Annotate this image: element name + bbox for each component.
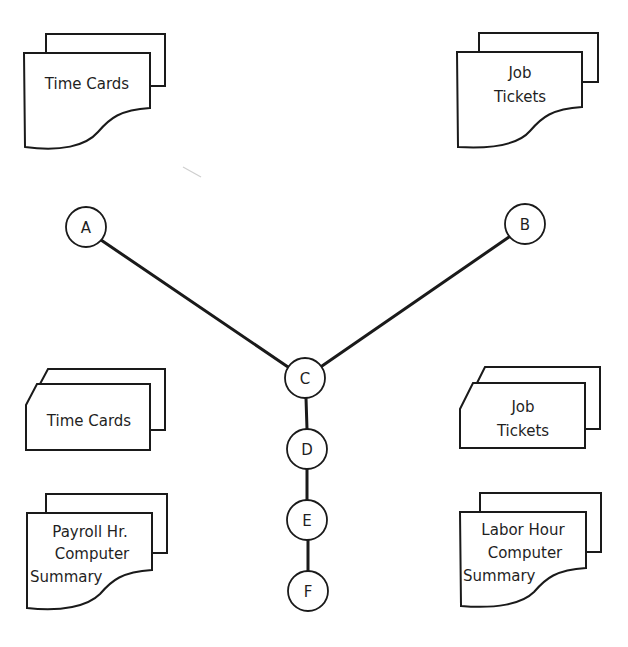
edge-a-c <box>101 240 288 367</box>
node-d: D <box>287 429 327 469</box>
document-label: Summary <box>463 567 536 585</box>
node-label: B <box>520 216 530 234</box>
node-label: A <box>81 219 92 237</box>
document-front-sheet <box>24 53 150 149</box>
flow-diagram: A B C D E F Time Cards Job Tickets Time … <box>0 0 628 647</box>
document-payroll-summary: Payroll Hr. Computer Summary <box>27 494 167 609</box>
edge-b-c <box>322 237 509 366</box>
node-b: B <box>505 204 545 244</box>
document-label: Payroll Hr. <box>52 523 127 541</box>
document-job-tickets-top: Job Tickets <box>457 33 598 147</box>
stray-mark <box>183 167 201 177</box>
document-label: Tickets <box>493 88 546 106</box>
node-a: A <box>66 207 106 247</box>
edge-c-d <box>306 398 307 429</box>
card-label: Tickets <box>496 422 549 440</box>
document-labor-hour-summary: Labor Hour Computer Summary <box>460 493 601 607</box>
card-label: Job <box>510 398 534 416</box>
node-label: E <box>302 512 311 530</box>
document-label: Summary <box>30 568 103 586</box>
document-time-cards-top: Time Cards <box>24 34 165 149</box>
card-label: Time Cards <box>46 412 132 430</box>
document-label: Computer <box>55 545 130 563</box>
node-e: E <box>287 500 327 540</box>
document-label: Computer <box>488 544 563 562</box>
node-c: C <box>285 358 325 398</box>
node-label: C <box>300 370 310 388</box>
document-label: Labor Hour <box>481 521 565 539</box>
card-job-tickets: Job Tickets <box>460 367 600 448</box>
card-time-cards: Time Cards <box>26 369 165 450</box>
document-label: Job <box>507 64 531 82</box>
node-label: D <box>301 441 313 459</box>
node-f: F <box>288 571 328 611</box>
node-label: F <box>304 583 313 601</box>
document-label: Time Cards <box>44 75 130 93</box>
